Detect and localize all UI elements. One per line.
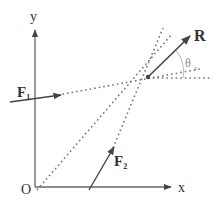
f2-line-of-action <box>113 28 163 148</box>
f1-label: F1 <box>17 84 30 102</box>
y-axis-label: y <box>30 9 37 24</box>
origin-label: O <box>21 182 31 197</box>
intersection-point <box>146 75 150 79</box>
f2-label: F2 <box>114 153 127 171</box>
x-axis-label: x <box>178 180 185 195</box>
axes <box>35 30 171 187</box>
force-diagram: y x O F1 F2 R θx <box>0 0 215 206</box>
resultant-label: R <box>194 27 206 44</box>
f1-line-of-action <box>58 69 200 95</box>
f2-arrow <box>89 147 114 190</box>
angle-label: θx <box>185 56 198 72</box>
diagonal-dashed-line-1 <box>37 34 172 190</box>
